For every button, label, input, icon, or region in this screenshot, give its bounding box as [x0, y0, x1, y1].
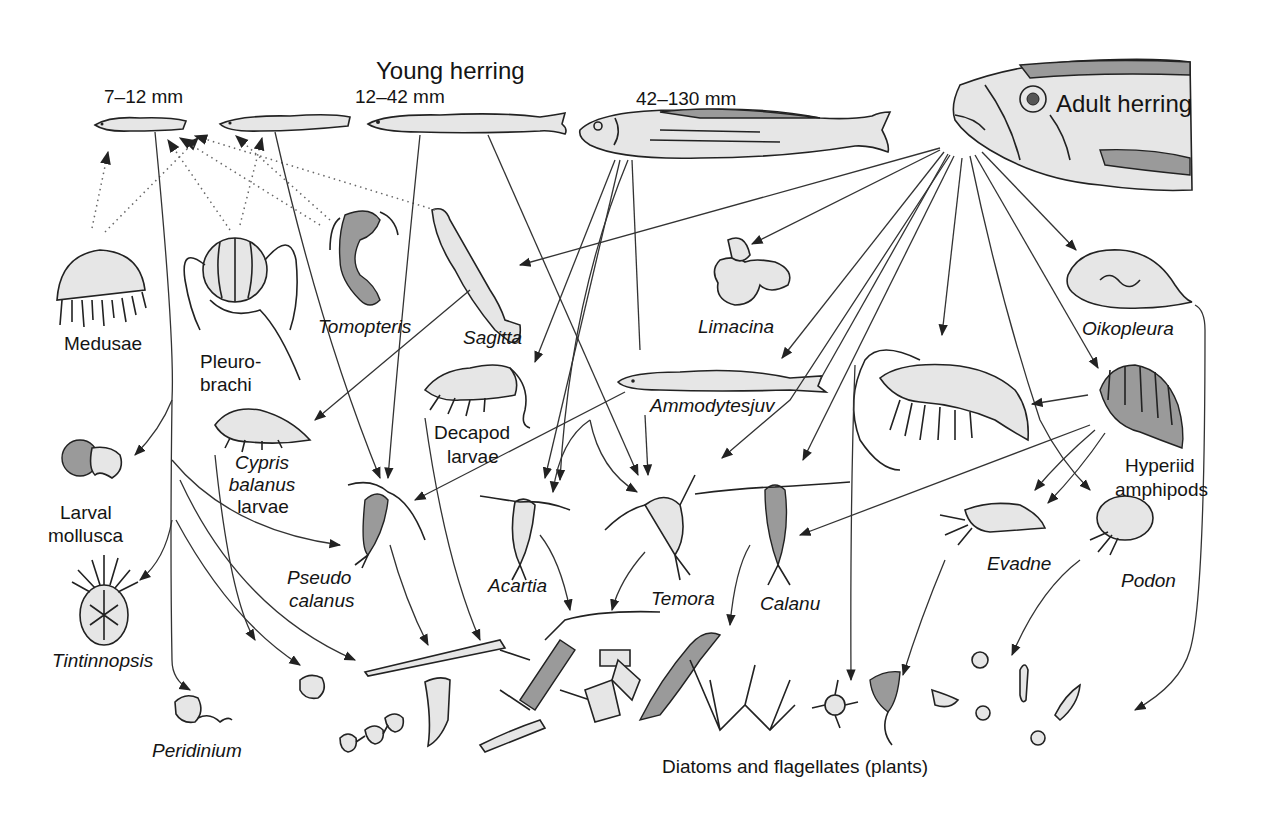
label-cypris-line3: larvae [228, 496, 298, 517]
food-web-diagram [0, 0, 1264, 813]
label-pseudocalanus-line2: calanus [289, 590, 355, 611]
hyperiid-amphipod-icon [1100, 365, 1183, 448]
title-young-herring: Young herring [376, 58, 525, 84]
label-diatoms-flagellates: Diatoms and flagellates (plants) [662, 756, 928, 777]
ammodytes-juvenile-icon [618, 370, 826, 392]
cypris-larva-icon [215, 409, 310, 452]
tomopteris-icon [330, 211, 398, 305]
label-adult-herring: Adult herring [1056, 91, 1192, 117]
label-tomopteris: Tomopteris [318, 316, 411, 337]
sagitta-icon [432, 209, 520, 343]
label-calanus: Calanu [760, 593, 820, 614]
label-pseudocalanus-line1: Pseudo [287, 567, 351, 588]
label-temora: Temora [651, 588, 715, 609]
label-decapod-line1: Decapod [434, 422, 510, 443]
podon-cladoceran-icon [1090, 496, 1153, 555]
evadne-cladoceran-icon [940, 503, 1045, 545]
tintinnopsis-icon [72, 555, 138, 645]
solid-feeding-arrows [135, 132, 1205, 710]
calanus-copepod-icon [695, 482, 850, 585]
stage-label-7-12mm: 7–12 mm [104, 86, 183, 107]
label-hyperiid-line1: Hyperiid [1125, 455, 1195, 476]
label-pleurobrachia-line1: Pleuro- [200, 351, 261, 372]
diatom-chains-icon [300, 612, 1080, 752]
label-acartia: Acartia [488, 575, 547, 596]
stage-label-42-130mm: 42–130 mm [636, 88, 736, 109]
oikopleura-icon [1067, 250, 1192, 308]
krill-mysid-icon [854, 350, 1029, 470]
herring-larva-stage-2-icon [220, 115, 350, 131]
label-hyperiid-line2: amphipods [1115, 479, 1208, 500]
limacina-icon [714, 238, 789, 305]
herring-juvenile-12-42mm-icon [368, 113, 566, 134]
label-cypris-line2: balanus [222, 474, 302, 495]
adult-herring-head-icon [953, 59, 1192, 190]
label-tintinnopsis: Tintinnopsis [52, 650, 153, 671]
pseudocalanus-copepod-icon [348, 483, 425, 568]
label-sagitta: Sagitta [463, 327, 522, 348]
label-larval-mollusca-line1: Larval [60, 502, 112, 523]
label-decapod-line2: larvae [447, 446, 499, 467]
label-medusae: Medusae [64, 333, 142, 354]
label-evadne: Evadne [987, 553, 1051, 574]
label-ammodytes-juvenile: Ammodytesjuv [650, 395, 775, 416]
herring-juvenile-42-130mm-icon [580, 109, 890, 158]
larval-mollusca-icon [62, 440, 121, 478]
label-cypris-line1: Cypris [232, 452, 292, 473]
medusae-icon [57, 250, 146, 327]
peridinium-icon [175, 696, 232, 723]
stage-label-12-42mm: 12–42 mm [355, 86, 445, 107]
decapod-larva-icon [425, 365, 530, 428]
herring-larva-7-12mm-icon [95, 118, 186, 131]
label-larval-mollusca-line2: mollusca [48, 525, 123, 546]
label-pleurobrachia-line2: brachi [200, 374, 252, 395]
label-peridinium: Peridinium [152, 740, 242, 761]
temora-copepod-icon [605, 475, 695, 580]
label-oikopleura: Oikopleura [1082, 318, 1174, 339]
acartia-copepod-icon [480, 496, 570, 580]
label-podon: Podon [1121, 570, 1176, 591]
dotted-predation-arrows [92, 136, 435, 232]
label-limacina: Limacina [698, 316, 774, 337]
